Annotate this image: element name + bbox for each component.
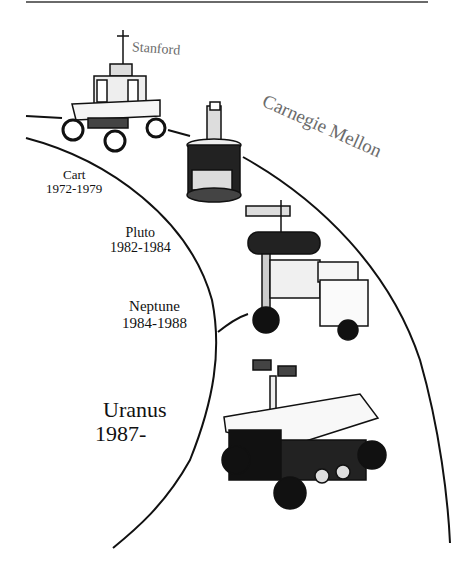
robot-name: Uranus [103, 397, 167, 422]
robot-label-cart: Cart 1972-1979 [46, 168, 102, 197]
neptune-tether-cable [218, 314, 248, 332]
lineage-diagram [0, 0, 475, 574]
robot-years: 1984-1988 [122, 315, 187, 332]
neptune-robot-icon [246, 200, 368, 340]
pluto-robot-icon [187, 102, 241, 202]
robot-label-neptune: Neptune 1984-1988 [122, 298, 187, 331]
robot-label-uranus: Uranus 1987- [103, 398, 167, 446]
robot-years: 1982-1984 [110, 240, 171, 255]
robot-name: Cart [46, 168, 102, 182]
inner-boundary-curve [26, 138, 216, 548]
robot-name: Neptune [122, 298, 187, 315]
stanford-label: Stanford [132, 39, 181, 58]
robot-label-pluto: Pluto 1982-1984 [110, 225, 171, 256]
robot-years: 1972-1979 [46, 182, 102, 196]
robot-name: Pluto [110, 225, 171, 240]
uranus-robot-icon [222, 360, 386, 509]
robot-years: 1987- [95, 422, 167, 446]
